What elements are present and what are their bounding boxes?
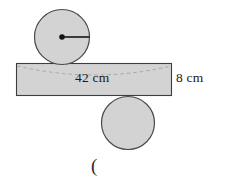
height-dimension-label: 8 cm — [176, 71, 203, 85]
footer-parenthesis-mark: ( — [91, 156, 97, 175]
bottom-circle — [102, 97, 155, 150]
geometry-figure-canvas: 42 cm 8 cm ( — [0, 0, 236, 186]
figure-vector-layer — [0, 0, 236, 186]
center-dot-icon — [59, 34, 65, 40]
width-dimension-label: 42 cm — [75, 71, 109, 85]
